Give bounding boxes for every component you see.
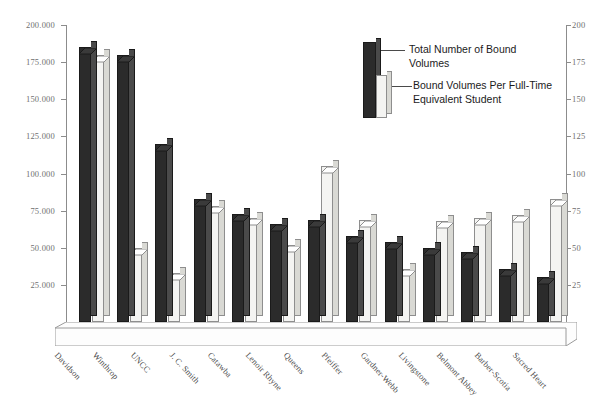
bar-side-face — [129, 49, 135, 316]
bar-top-face — [232, 208, 250, 215]
bar-top-face — [423, 242, 441, 249]
bar-side-face — [562, 193, 568, 316]
bar-side-face — [282, 218, 288, 316]
bar-front-face — [385, 242, 397, 322]
bar-top-face — [537, 271, 555, 278]
legend-swatch-total — [363, 42, 376, 118]
bar-total-volumes — [461, 246, 479, 322]
bar-top-face — [346, 230, 364, 237]
bar-total-volumes — [423, 242, 441, 322]
bar-front-face — [79, 47, 91, 322]
bar-total-volumes — [232, 208, 250, 322]
bar-top-face — [359, 214, 377, 221]
bar-front-face — [423, 248, 435, 322]
bar-front-face — [117, 55, 129, 322]
bar-top-face — [461, 246, 479, 253]
bar-top-face — [550, 193, 568, 200]
bar-front-face — [194, 199, 206, 322]
bar-top-face — [385, 236, 403, 243]
base-platform-shape — [55, 322, 577, 346]
bar-top-face — [321, 160, 339, 167]
bar-side-face — [206, 193, 212, 316]
bar-side-face — [320, 214, 326, 316]
bar-side-face — [244, 208, 250, 316]
bar-side-face — [104, 49, 110, 316]
bar-top-face — [512, 209, 530, 216]
bar-side-face — [257, 212, 263, 316]
bar-top-face — [308, 214, 326, 221]
bar-side-face — [333, 160, 339, 316]
bar-top-face — [270, 218, 288, 225]
bar-top-face — [79, 41, 97, 48]
legend-leader-line-1 — [381, 50, 405, 51]
bar-top-face — [499, 263, 517, 270]
legend-swatch-per-student — [376, 75, 387, 118]
bar-total-volumes — [194, 193, 212, 322]
bar-front-face — [461, 252, 473, 322]
bar-total-volumes — [537, 271, 555, 322]
bar-top-face — [474, 212, 492, 219]
legend-swatch-per-student-side — [387, 71, 392, 114]
bar-top-face — [117, 49, 135, 56]
bar-total-volumes — [79, 41, 97, 322]
bar-side-face — [219, 200, 225, 316]
bar-total-volumes — [308, 214, 326, 322]
bar-front-face — [308, 220, 320, 322]
bar-side-face — [486, 212, 492, 316]
legend-label-per-student: Bound Volumes Per Full-Time Equivalent S… — [413, 79, 588, 106]
bar-front-face — [155, 144, 167, 322]
bar-side-face — [91, 41, 97, 316]
bar-top-face — [194, 193, 212, 200]
bar-total-volumes — [117, 49, 135, 322]
bar-side-face — [371, 214, 377, 316]
bar-front-face — [346, 236, 358, 322]
legend-leader-line-2 — [392, 86, 412, 87]
legend: Total Number of Bound Volumes Bound Volu… — [363, 38, 578, 120]
base-platform — [55, 322, 577, 346]
bar-total-volumes — [499, 263, 517, 322]
bar-side-face — [448, 215, 454, 316]
bar-side-face — [167, 138, 173, 316]
bar-front-face — [232, 214, 244, 322]
bar-total-volumes — [346, 230, 364, 322]
bar-top-face — [436, 215, 454, 222]
bar-total-volumes — [385, 236, 403, 322]
bar-top-face — [155, 138, 173, 145]
bar-side-face — [524, 209, 530, 316]
legend-label-total-volumes: Total Number of Bound Volumes — [409, 43, 579, 70]
bar-total-volumes — [155, 138, 173, 322]
bar-chart: 25.00050.00075.000100.000125.000150.0001… — [0, 0, 610, 412]
bar-front-face — [270, 224, 282, 322]
bar-total-volumes — [270, 218, 288, 322]
